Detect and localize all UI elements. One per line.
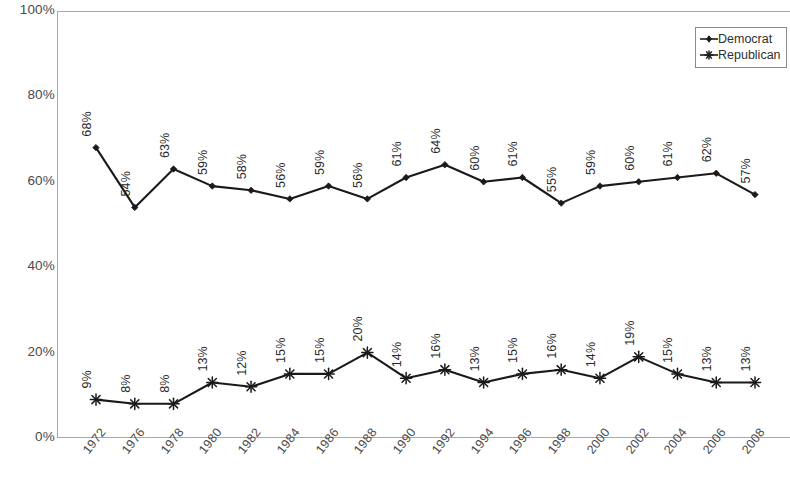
- data-point-label: 13%: [739, 346, 753, 371]
- data-point-label: 59%: [196, 150, 210, 175]
- chart-root: 0%20%40%60%80%100% 68%54%63%59%58%56%59%…: [0, 0, 790, 484]
- data-point-marker: [517, 368, 528, 379]
- data-point-label: 64%: [429, 128, 443, 153]
- data-point-marker: [284, 368, 295, 379]
- legend-item-democrat[interactable]: Democrat: [700, 31, 781, 47]
- data-point-marker: [325, 183, 331, 189]
- data-point-marker: [711, 377, 722, 388]
- data-point-marker: [633, 351, 644, 362]
- data-point-label: 59%: [313, 150, 327, 175]
- data-point-marker: [672, 368, 683, 379]
- data-point-marker: [442, 162, 448, 168]
- data-point-label: 68%: [80, 111, 94, 136]
- data-point-label: 16%: [429, 333, 443, 358]
- data-point-marker: [245, 381, 256, 392]
- data-point-marker: [556, 364, 567, 375]
- data-point-marker: [323, 368, 334, 379]
- legend-label-republican: Republican: [718, 48, 781, 62]
- chart-canvas: 68%54%63%59%58%56%59%56%61%64%60%61%55%5…: [0, 0, 790, 484]
- data-point-marker: [248, 187, 254, 193]
- data-point-label: 58%: [235, 154, 249, 179]
- data-point-label: 13%: [196, 346, 210, 371]
- data-point-label: 9%: [80, 370, 94, 388]
- data-point-marker: [480, 179, 486, 185]
- data-point-label: 16%: [545, 333, 559, 358]
- data-point-label: 14%: [584, 342, 598, 367]
- data-point-marker: [362, 347, 373, 358]
- data-point-label: 13%: [468, 346, 482, 371]
- data-point-marker: [90, 394, 101, 405]
- data-point-label: 12%: [235, 350, 249, 375]
- data-point-label: 60%: [468, 145, 482, 170]
- data-point-label: 14%: [390, 342, 404, 367]
- data-point-marker: [636, 179, 642, 185]
- data-point-label: 13%: [700, 346, 714, 371]
- diamond-marker-icon: [700, 32, 718, 46]
- data-point-marker: [207, 377, 218, 388]
- data-point-label: 15%: [313, 338, 327, 363]
- data-point-marker: [209, 183, 215, 189]
- data-point-label: 8%: [158, 375, 172, 393]
- data-point-label: 61%: [390, 141, 404, 166]
- data-labels-layer: 68%54%63%59%58%56%59%56%61%64%60%61%55%5…: [80, 111, 753, 393]
- data-point-label: 62%: [700, 137, 714, 162]
- data-point-label: 57%: [739, 158, 753, 183]
- data-point-label: 15%: [506, 338, 520, 363]
- series-democrat: [93, 144, 758, 210]
- data-point-label: 19%: [623, 321, 637, 346]
- series-layer: [90, 144, 760, 409]
- data-point-label: 56%: [274, 163, 288, 188]
- data-point-marker: [287, 196, 293, 202]
- data-point-marker: [439, 364, 450, 375]
- legend-label-democrat: Democrat: [718, 32, 772, 46]
- data-point-label: 15%: [661, 338, 675, 363]
- data-point-marker: [597, 183, 603, 189]
- data-point-marker: [674, 174, 680, 180]
- data-point-label: 54%: [119, 171, 133, 196]
- data-point-marker: [168, 398, 179, 409]
- data-point-label: 61%: [506, 141, 520, 166]
- data-point-label: 59%: [584, 150, 598, 175]
- data-point-label: 55%: [545, 167, 559, 192]
- data-point-marker: [749, 377, 760, 388]
- asterisk-marker-icon: [700, 48, 718, 62]
- data-point-label: 60%: [623, 145, 637, 170]
- data-point-label: 20%: [351, 316, 365, 341]
- data-point-marker: [129, 398, 140, 409]
- data-point-marker: [401, 373, 412, 384]
- data-point-marker: [478, 377, 489, 388]
- data-point-marker: [594, 373, 605, 384]
- data-point-label: 61%: [661, 141, 675, 166]
- data-point-label: 63%: [158, 133, 172, 158]
- data-point-label: 56%: [351, 163, 365, 188]
- chart-legend: Democrat Republican: [695, 27, 787, 68]
- data-point-label: 15%: [274, 338, 288, 363]
- series-republican: [90, 347, 760, 409]
- legend-item-republican[interactable]: Republican: [700, 47, 781, 63]
- data-point-label: 8%: [119, 375, 133, 393]
